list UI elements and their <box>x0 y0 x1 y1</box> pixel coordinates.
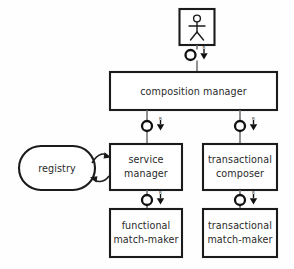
ball-and-socket-icon[interactable] <box>235 195 245 205</box>
required-arrow-icon <box>157 198 164 204</box>
transactional-match-maker-box[interactable] <box>203 209 277 257</box>
connector-service-manager-to-functional-match-maker[interactable]: R <box>142 190 164 209</box>
functional-match-maker-label-line1: functional <box>122 220 171 231</box>
functional-match-maker-box[interactable] <box>110 209 182 257</box>
ball-and-socket-icon[interactable] <box>235 121 245 131</box>
connector-required-label: R <box>252 190 255 195</box>
node-functional-match-maker[interactable]: functional match-maker <box>110 209 182 257</box>
functional-match-maker-label-line2: match-maker <box>113 234 178 245</box>
required-arrow-icon <box>250 124 257 130</box>
connector-required-label: R <box>159 116 162 121</box>
ball-and-socket-icon[interactable] <box>142 121 152 131</box>
connector-composition-manager-to-transactional-composer[interactable]: R <box>235 110 257 144</box>
transactional-composer-label-line1: transactional <box>208 154 272 165</box>
service-manager-label-line1: service <box>128 154 163 165</box>
transactional-match-maker-label-line1: transactional <box>208 220 272 231</box>
transactional-composer-label-line2: composer <box>216 168 264 179</box>
actor-node[interactable] <box>180 9 215 45</box>
required-arrow-icon <box>157 124 164 130</box>
transactional-composer-box[interactable] <box>203 144 277 190</box>
transactional-match-maker-label-line2: match-maker <box>207 234 272 245</box>
actor-head-icon <box>194 15 201 22</box>
connector-required-label: R <box>203 45 206 50</box>
connector-required-label: R <box>159 190 162 195</box>
node-registry[interactable]: registry <box>19 146 95 190</box>
connector-actor-to-composition-manager[interactable]: R <box>186 45 208 72</box>
node-service-manager[interactable]: service manager <box>110 144 182 190</box>
connector-transactional-composer-to-transactional-match-maker[interactable]: R <box>235 190 257 209</box>
ball-and-socket-icon[interactable] <box>186 50 196 60</box>
connector-composition-manager-to-service-manager[interactable]: R <box>142 110 164 144</box>
ball-and-socket-icon[interactable] <box>142 195 152 205</box>
component-diagram-canvas: R composition manager R R registry <box>0 0 294 269</box>
node-transactional-match-maker[interactable]: transactional match-maker <box>203 209 277 257</box>
registry-label: registry <box>38 163 76 174</box>
diagram-root: R composition manager R R registry <box>0 0 294 269</box>
node-composition-manager[interactable]: composition manager <box>110 72 277 110</box>
required-arrow-icon <box>250 198 257 204</box>
node-transactional-composer[interactable]: transactional composer <box>203 144 277 190</box>
service-manager-box[interactable] <box>110 144 182 190</box>
service-manager-label-line2: manager <box>124 168 168 179</box>
connector-required-label: R <box>252 116 255 121</box>
composition-manager-label: composition manager <box>140 86 247 97</box>
required-arrow-icon <box>200 53 207 59</box>
